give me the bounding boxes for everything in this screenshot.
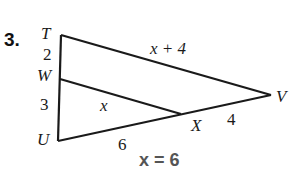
vertex-label-V: V (276, 88, 286, 105)
measure-WU: 3 (40, 96, 49, 113)
segment-UV (58, 95, 271, 141)
answer-text: x = 6 (139, 151, 180, 169)
problem-number: 3. (4, 30, 20, 49)
measure-TV: x + 4 (150, 40, 186, 57)
measure-WX: x (100, 97, 108, 114)
vertex-label-T: T (41, 25, 50, 42)
geometry-problem: 3. T 2 W 3 U x + 4 V x X 4 6 x = 6 (0, 0, 304, 178)
vertex-label-W: W (37, 67, 51, 84)
segment-TU (58, 35, 61, 141)
vertex-label-U: U (37, 131, 49, 148)
measure-UX: 6 (118, 136, 127, 153)
measure-TW: 2 (43, 46, 52, 63)
measure-XV: 4 (227, 111, 236, 128)
vertex-label-X: X (191, 117, 201, 134)
segment-WX (60, 79, 181, 114)
